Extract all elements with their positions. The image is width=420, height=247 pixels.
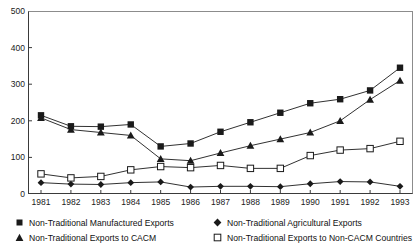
x-axis-tick-label: 1993 bbox=[391, 197, 410, 207]
filled-square-icon bbox=[14, 217, 25, 228]
x-axis: 1981198219831984198519861987198819891990… bbox=[28, 197, 413, 211]
x-axis-tick-label: 1988 bbox=[241, 197, 260, 207]
y-axis-tick-label: 100 bbox=[1, 153, 25, 162]
series-0 bbox=[38, 65, 403, 150]
x-axis-tick-label: 1983 bbox=[91, 197, 110, 207]
y-axis-tick-label: 0 bbox=[1, 190, 25, 199]
plot-series-layer bbox=[28, 11, 413, 194]
x-axis-tick-label: 1981 bbox=[32, 197, 51, 207]
chart-legend: Non-Traditional Manufactured Exports Non… bbox=[0, 214, 420, 247]
x-axis-tick-label: 1986 bbox=[181, 197, 200, 207]
line-chart: 0100200300400500 19811982198319841985198… bbox=[0, 0, 420, 247]
legend-label: Non-Traditional Exports to Non-CACM Coun… bbox=[227, 233, 412, 243]
y-axis-tick-label: 400 bbox=[1, 44, 25, 53]
series-2 bbox=[37, 77, 404, 164]
open-square-icon bbox=[212, 232, 223, 243]
filled-triangle-icon bbox=[14, 232, 25, 243]
x-axis-tick-label: 1992 bbox=[361, 197, 380, 207]
legend-item-exports-to-non-cacm[interactable]: Non-Traditional Exports to Non-CACM Coun… bbox=[212, 232, 412, 243]
y-axis-tick-label: 300 bbox=[1, 80, 25, 89]
y-axis-tick-label: 200 bbox=[1, 117, 25, 126]
legend-label: Non-Traditional Manufactured Exports bbox=[29, 218, 174, 228]
legend-item-agricultural-exports[interactable]: Non-Traditional Agricultural Exports bbox=[212, 217, 362, 228]
y-axis: 0100200300400500 bbox=[0, 11, 25, 194]
series-1 bbox=[38, 178, 404, 190]
x-axis-tick-label: 1984 bbox=[121, 197, 140, 207]
legend-label: Non-Traditional Agricultural Exports bbox=[227, 218, 362, 228]
x-axis-tick-label: 1982 bbox=[61, 197, 80, 207]
filled-diamond-icon bbox=[212, 217, 223, 228]
y-axis-tick-label: 500 bbox=[1, 7, 25, 16]
legend-item-manufactured-exports[interactable]: Non-Traditional Manufactured Exports bbox=[14, 217, 174, 228]
x-axis-tick-label: 1987 bbox=[211, 197, 230, 207]
x-axis-tick-label: 1991 bbox=[331, 197, 350, 207]
x-axis-tick-label: 1985 bbox=[151, 197, 170, 207]
x-axis-tick-label: 1989 bbox=[271, 197, 290, 207]
legend-item-exports-to-cacm[interactable]: Non-Traditional Exports to CACM bbox=[14, 232, 156, 243]
x-axis-tick-label: 1990 bbox=[301, 197, 320, 207]
legend-label: Non-Traditional Exports to CACM bbox=[29, 233, 156, 243]
series-3 bbox=[38, 138, 403, 181]
